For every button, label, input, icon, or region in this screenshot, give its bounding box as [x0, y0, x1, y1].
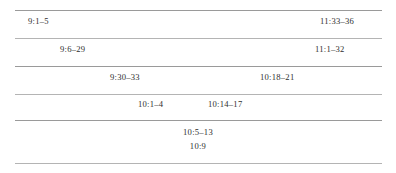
- reference-left-level-2: 9:6–29: [60, 42, 85, 56]
- structure-row-level-1: 9:1–5 11:33–36: [0, 14, 396, 41]
- structure-row-level-5-center: 10:5–13 10:9: [0, 125, 396, 169]
- structure-row-level-3: 9:30–33 10:18–21: [0, 70, 396, 97]
- reference-left-level-3: 9:30–33: [110, 70, 140, 84]
- reference-right-level-4: 10:14–17: [208, 97, 242, 111]
- structure-row-level-4: 10:1–4 10:14–17: [0, 97, 396, 124]
- reference-left-level-4: 10:1–4: [138, 97, 163, 111]
- reference-left-level-1: 9:1–5: [28, 14, 49, 28]
- reference-right-level-2: 11:1–32: [315, 42, 345, 56]
- structure-row-level-2: 9:6–29 11:1–32: [0, 42, 396, 69]
- reference-center-primary: 10:5–13: [0, 125, 396, 139]
- horizontal-rule-top: [15, 10, 382, 11]
- reference-center-secondary: 10:9: [0, 139, 396, 153]
- reference-right-level-1: 11:33–36: [320, 14, 354, 28]
- chiastic-structure-diagram: 9:1–5 11:33–36 9:6–29 11:1–32 9:30–33 10…: [0, 0, 396, 173]
- reference-right-level-3: 10:18–21: [260, 70, 294, 84]
